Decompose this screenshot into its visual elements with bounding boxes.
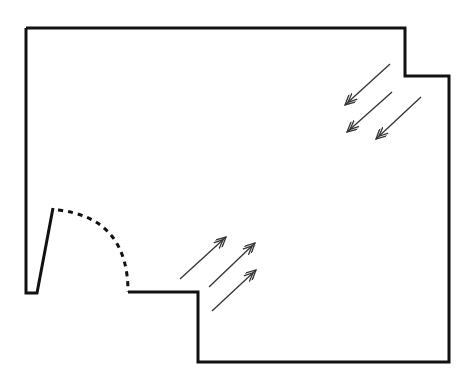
- arrow-up-right-icon: [209, 243, 255, 287]
- arrow-down-left-icon: [347, 92, 392, 132]
- airflow-arrows: [180, 64, 421, 311]
- arrow-up-right-icon: [212, 270, 256, 311]
- arrow-down-left-icon: [376, 97, 421, 139]
- door-jamb-wall: [26, 28, 53, 293]
- arrow-down-left-icon: [345, 64, 390, 105]
- floor-plan-diagram: [0, 0, 475, 383]
- wall-outline: [26, 28, 449, 362]
- arrow-up-right-icon: [180, 237, 226, 279]
- door-swing-arc: [58, 210, 128, 292]
- floor-plan-svg: [0, 0, 475, 383]
